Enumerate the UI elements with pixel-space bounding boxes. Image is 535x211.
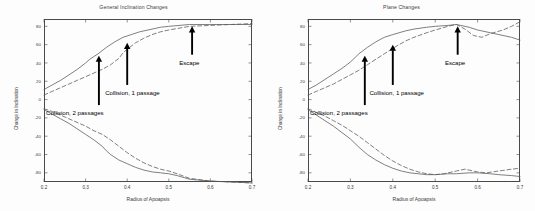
annotation-arrow-head bbox=[362, 56, 368, 62]
annotation-label: Escape bbox=[179, 59, 199, 66]
y-axis-label: Change in Inclination bbox=[14, 87, 19, 130]
annotation-label: Collision, 2 passages bbox=[310, 109, 368, 116]
annotation-label: Collision, 1 passage bbox=[105, 89, 160, 96]
y-tick-label: 80 bbox=[22, 24, 41, 29]
x-tick-label: 0.4 bbox=[384, 185, 402, 190]
y-tick-label: 20 bbox=[286, 79, 305, 84]
y-tick-label: -40 bbox=[286, 134, 305, 139]
y-tick-label: -60 bbox=[286, 152, 305, 157]
x-tick-label: 0.7 bbox=[511, 185, 529, 190]
x-tick-label: 0.3 bbox=[341, 185, 359, 190]
annotation-arrow-head bbox=[96, 56, 102, 62]
x-tick-label: 0.2 bbox=[299, 185, 317, 190]
x-tick-label: 0.4 bbox=[118, 185, 136, 190]
series-lower-dashed bbox=[308, 109, 520, 175]
plot-canvas-right bbox=[268, 0, 535, 211]
y-tick-label: -40 bbox=[22, 134, 41, 139]
x-tick-label: 0.7 bbox=[243, 185, 261, 190]
annotation-arrow-head bbox=[189, 26, 195, 32]
plot-canvas-left bbox=[0, 0, 267, 211]
y-tick-label: 40 bbox=[22, 61, 41, 66]
y-tick-label: 40 bbox=[286, 61, 305, 66]
x-tick-label: 0.6 bbox=[201, 185, 219, 190]
y-tick-label: 60 bbox=[22, 42, 41, 47]
annotation-label: Escape bbox=[445, 59, 465, 66]
y-tick-label: 60 bbox=[286, 42, 305, 47]
y-tick-label: -20 bbox=[286, 115, 305, 120]
series-lower-dashed bbox=[44, 109, 252, 183]
y-tick-label: -80 bbox=[22, 170, 41, 175]
y-tick-label: 20 bbox=[22, 79, 41, 84]
x-tick-label: 0.5 bbox=[426, 185, 444, 190]
chart-panel-plane-changes: Plane Changes Change in Inclination Radi… bbox=[268, 0, 535, 211]
x-axis-label: Radius of Apoapsis bbox=[44, 196, 252, 202]
x-tick-label: 0.2 bbox=[35, 185, 53, 190]
annotation-label: Collision, 2 passages bbox=[46, 109, 104, 116]
series-lower-solid bbox=[44, 110, 252, 183]
x-tick-label: 0.6 bbox=[469, 185, 487, 190]
y-tick-label: -60 bbox=[22, 152, 41, 157]
series-lower-solid bbox=[308, 110, 520, 177]
y-tick-label: 0 bbox=[286, 97, 305, 102]
series-upper-dashed bbox=[44, 24, 252, 95]
y-tick-label: -80 bbox=[286, 170, 305, 175]
annotation-arrow-head bbox=[124, 43, 130, 49]
annotation-label: Collision, 1 passage bbox=[369, 89, 424, 96]
y-tick-label: -20 bbox=[22, 115, 41, 120]
chart-panel-general-inclination-changes: General Inclination Changes Change in In… bbox=[0, 0, 267, 211]
annotation-arrow-head bbox=[454, 26, 460, 32]
x-axis-label: Radius of Apoapsis bbox=[308, 196, 520, 202]
y-tick-label: 0 bbox=[22, 97, 41, 102]
x-tick-label: 0.5 bbox=[160, 185, 178, 190]
series-upper-dashed bbox=[308, 22, 520, 95]
x-tick-label: 0.3 bbox=[77, 185, 95, 190]
annotation-arrow-head bbox=[390, 45, 396, 51]
y-axis-label: Change in Inclination bbox=[278, 87, 283, 130]
figure-root: General Inclination Changes Change in In… bbox=[0, 0, 535, 211]
y-tick-label: 80 bbox=[286, 24, 305, 29]
series-upper-solid bbox=[44, 24, 252, 89]
